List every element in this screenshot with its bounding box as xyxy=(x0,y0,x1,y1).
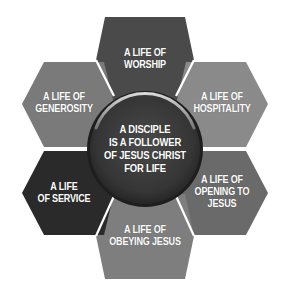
hexagon-label-worship: A LIFE OF WORSHIP xyxy=(112,46,178,70)
center-line: A DISCIPLE xyxy=(104,123,186,136)
center-line: FOR LIFE xyxy=(104,162,186,175)
label-line: A LIFE OF xyxy=(189,90,255,102)
label-line: OF SERVICE xyxy=(31,192,97,204)
label-line: GENEROSITY xyxy=(31,102,97,114)
hexagon-label-opening-to-jesus: A LIFE OF OPENING TO JESUS xyxy=(189,173,255,209)
hexagon-label-hospitality: A LIFE OF HOSPITALITY xyxy=(189,90,255,114)
label-line: A LIFE OF xyxy=(31,90,97,102)
label-line: A LIFE OF xyxy=(189,173,255,185)
hexagon-label-obeying-jesus: A LIFE OF OBEYING JESUS xyxy=(108,223,182,247)
center-line: OF JESUS CHRIST xyxy=(104,149,186,162)
center-label: A DISCIPLE IS A FOLLOWER OF JESUS CHRIST… xyxy=(104,123,186,175)
label-line: OPENING TO xyxy=(189,185,255,197)
label-line: HOSPITALITY xyxy=(189,102,255,114)
hexagon-label-generosity: A LIFE OF GENEROSITY xyxy=(31,90,97,114)
label-line: OBEYING JESUS xyxy=(108,235,182,247)
discipleship-hexagon-diagram: A LIFE OF WORSHIP A LIFE OF HOSPITALITY … xyxy=(0,0,288,293)
center-line: IS A FOLLOWER xyxy=(104,136,186,149)
label-line: WORSHIP xyxy=(112,58,178,70)
label-line: A LIFE OF xyxy=(108,223,182,235)
label-line: JESUS xyxy=(189,197,255,209)
hexagon-label-service: A LIFE OF SERVICE xyxy=(31,180,97,204)
label-line: A LIFE xyxy=(31,180,97,192)
label-line: A LIFE OF xyxy=(112,46,178,58)
